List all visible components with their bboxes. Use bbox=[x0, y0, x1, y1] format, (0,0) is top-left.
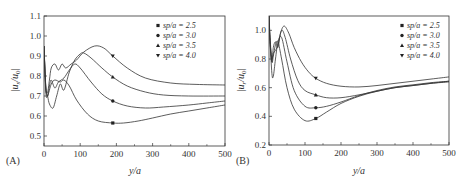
x-tick-label: 200 bbox=[110, 149, 124, 159]
panel-label: (A) bbox=[6, 155, 20, 167]
curves bbox=[44, 46, 225, 123]
legend-entry: sp/a = 3.0 bbox=[163, 31, 196, 40]
chart-panel-b: 01002003004005000.20.40.60.81.0|ur/u0|y/… bbox=[235, 16, 456, 176]
y-tick-label: 0.9 bbox=[30, 51, 42, 61]
y-tick-label: 0.6 bbox=[30, 111, 42, 121]
legend-entry: sp/a = 4.0 bbox=[163, 51, 196, 60]
legend-marker bbox=[156, 54, 160, 58]
y-axis-label: |ur/u0| bbox=[235, 68, 248, 91]
legend-entry: sp/a = 2.5 bbox=[163, 21, 196, 30]
data-marker bbox=[111, 121, 114, 124]
legend-marker bbox=[156, 44, 160, 48]
legend-entry: sp/a = 2.5 bbox=[407, 21, 440, 30]
x-tick-label: 400 bbox=[182, 149, 196, 159]
x-tick-label: 100 bbox=[73, 149, 87, 159]
x-tick-label: 200 bbox=[334, 148, 348, 158]
x-tick-label: 300 bbox=[146, 149, 160, 159]
x-tick-label: 500 bbox=[442, 148, 456, 158]
y-tick-label: 1.1 bbox=[30, 11, 41, 21]
legend-marker bbox=[400, 44, 404, 48]
y-tick-label: 0.6 bbox=[255, 83, 267, 93]
chart-panel-a: 01002003004005000.50.60.70.80.91.01.1|us… bbox=[6, 11, 232, 176]
y-tick-label: 0.7 bbox=[30, 91, 42, 101]
y-tick-label: 1.0 bbox=[30, 31, 42, 41]
legend-entry: sp/a = 3.0 bbox=[407, 31, 440, 40]
legend: sp/a = 2.5sp/a = 3.0sp/a = 3.5sp/a = 4.0 bbox=[156, 21, 196, 60]
x-axis-label: y/a bbox=[352, 165, 365, 176]
x-tick-label: 100 bbox=[298, 148, 312, 158]
legend-marker bbox=[400, 24, 403, 27]
legend-entry: sp/a = 4.0 bbox=[407, 51, 440, 60]
plot-frame bbox=[44, 16, 225, 146]
y-axis-label: |us/u0| bbox=[9, 68, 22, 91]
series-line-30 bbox=[44, 46, 225, 108]
x-tick-label: 0 bbox=[42, 149, 47, 159]
data-marker bbox=[111, 99, 114, 102]
legend-marker bbox=[156, 34, 159, 37]
x-tick-label: 400 bbox=[406, 148, 420, 158]
y-tick-label: 0.8 bbox=[30, 71, 42, 81]
legend-entry: sp/a = 3.5 bbox=[407, 41, 440, 50]
legend-marker bbox=[400, 34, 403, 37]
legend-marker bbox=[400, 54, 404, 58]
legend-entry: sp/a = 3.5 bbox=[163, 41, 196, 50]
y-tick-label: 0.8 bbox=[255, 54, 267, 64]
figure: 01002003004005000.50.60.70.80.91.01.1|us… bbox=[0, 0, 466, 179]
x-tick-label: 500 bbox=[218, 149, 232, 159]
legend-marker bbox=[156, 24, 159, 27]
y-tick-label: 0.2 bbox=[255, 140, 266, 150]
x-axis-label: y/a bbox=[128, 165, 141, 176]
x-tick-label: 0 bbox=[267, 148, 272, 158]
legend: sp/a = 2.5sp/a = 3.0sp/a = 3.5sp/a = 4.0 bbox=[400, 21, 440, 60]
data-marker bbox=[314, 117, 317, 120]
series-line-35 bbox=[44, 46, 225, 108]
series-line-40 bbox=[44, 46, 225, 94]
data-marker bbox=[314, 77, 318, 81]
y-tick-label: 0.4 bbox=[255, 111, 267, 121]
y-tick-label: 1.0 bbox=[255, 25, 267, 35]
panel-label: (B) bbox=[236, 155, 249, 167]
x-tick-label: 300 bbox=[370, 148, 384, 158]
y-tick-label: 0.5 bbox=[30, 131, 42, 141]
data-marker bbox=[314, 106, 317, 109]
